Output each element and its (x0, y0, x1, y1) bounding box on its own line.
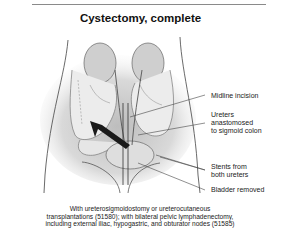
label-stents-line1: Stents from (211, 163, 248, 171)
diagram-title: Cystectomy, complete (0, 12, 281, 24)
caption: With ureterosigmoidostomy or ureterocuta… (20, 205, 260, 228)
label-ureters: Ureters anastomosed to sigmoid colon (211, 111, 262, 135)
pelvic-anatomy-illustration (20, 25, 210, 197)
label-midline-incision: Midline incision (211, 92, 258, 100)
label-stents: Stents from both ureters (211, 163, 248, 179)
top-rule (32, 4, 266, 5)
caption-line1: With ureterosigmoidostomy or ureterocuta… (20, 205, 260, 213)
label-stents-line2: both ureters (211, 171, 248, 179)
label-ureters-line2: anastomosed (211, 119, 262, 127)
label-ureters-line3: to sigmoid colon (211, 127, 262, 135)
label-bladder-removed: Bladder removed (211, 186, 264, 194)
label-ureters-line1: Ureters (211, 111, 262, 119)
caption-line2: transplantations (51580); with bilateral… (20, 213, 260, 221)
caption-line3: including external iliac, hypogastric, a… (20, 220, 260, 228)
